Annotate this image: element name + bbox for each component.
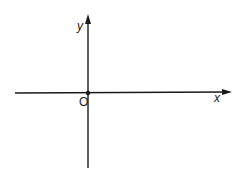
x-axis-line [15,92,226,93]
origin-label: O [79,96,88,108]
coordinate-axes [0,0,242,181]
y-axis-arrowhead-icon [85,14,91,24]
x-axis-label: x [214,92,220,104]
x-axis-arrowhead-icon [222,89,232,95]
y-axis-label: y [77,20,83,32]
